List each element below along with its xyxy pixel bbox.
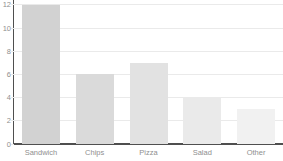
y-axis-line (13, 0, 14, 144)
y-tick-label-2: 2 (0, 117, 11, 124)
x-tick-label-other: Other (229, 148, 283, 157)
y-tick-label-0: 0 (0, 141, 11, 148)
y-axis-tick (11, 51, 14, 52)
bar-chips (76, 74, 114, 144)
y-tick-label-10: 10 (0, 25, 11, 32)
y-axis-tick (11, 144, 14, 145)
y-tick-label-12: 12 (0, 1, 11, 8)
bar-salad (183, 98, 221, 144)
y-axis-tick (11, 28, 14, 29)
bar-other (237, 109, 275, 144)
bar-sandwich (22, 5, 60, 144)
bar-chart: 024681012SandwichChipsPizzaSaladOther (0, 0, 283, 161)
y-axis-tick (11, 74, 14, 75)
y-axis-tick (11, 4, 14, 5)
y-tick-label-8: 8 (0, 48, 11, 55)
x-tick-label-sandwich: Sandwich (14, 148, 68, 157)
x-tick-label-pizza: Pizza (122, 148, 176, 157)
y-tick-label-4: 4 (0, 94, 11, 101)
x-tick-label-salad: Salad (175, 148, 229, 157)
y-axis-tick (11, 97, 14, 98)
y-axis-tick (11, 120, 14, 121)
y-tick-label-6: 6 (0, 71, 11, 78)
x-tick-label-chips: Chips (68, 148, 122, 157)
bar-pizza (130, 63, 168, 144)
